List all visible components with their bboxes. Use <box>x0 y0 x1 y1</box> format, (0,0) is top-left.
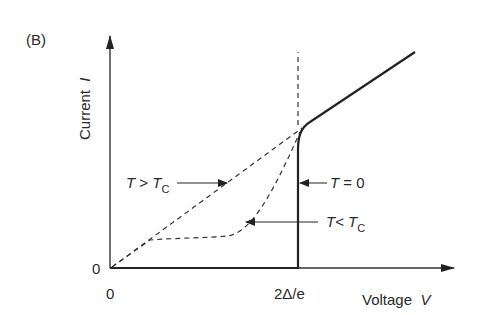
curve-t-above-tc <box>112 128 302 267</box>
curve-t-zero <box>110 52 415 268</box>
ann-symbol: T <box>126 174 135 191</box>
x-axis-label: Voltage V <box>362 292 430 307</box>
annotation-t-below-tc: T< TC <box>326 214 365 229</box>
y-axis-title: Current <box>76 90 93 140</box>
x-axis-symbol: V <box>420 291 430 308</box>
ann-subscript: C <box>357 222 365 234</box>
annotation-t-above-tc: T > TC <box>126 175 169 190</box>
iv-chart <box>0 0 479 315</box>
ann-relation: > <box>135 174 152 191</box>
y-origin-tick: 0 <box>92 261 100 276</box>
curve-t-below-tc <box>112 132 300 267</box>
y-axis-label: Current I <box>76 77 93 140</box>
annotation-t-zero: T = 0 <box>330 175 365 190</box>
ann-relation: < <box>335 213 348 230</box>
ann-symbol: T <box>330 174 339 191</box>
y-axis-symbol: I <box>76 77 93 81</box>
panel-label: (B) <box>26 32 46 47</box>
ann-subscript: C <box>161 183 169 195</box>
ann-symbol: T <box>326 213 335 230</box>
ann-relation: = 0 <box>339 174 364 191</box>
x-origin-tick: 0 <box>106 286 114 301</box>
ann-symbol: T <box>348 213 357 230</box>
gap-tick-text: 2Δ/e <box>274 285 305 302</box>
x-axis-title: Voltage <box>362 291 412 308</box>
gap-tick: 2Δ/e <box>274 286 305 301</box>
